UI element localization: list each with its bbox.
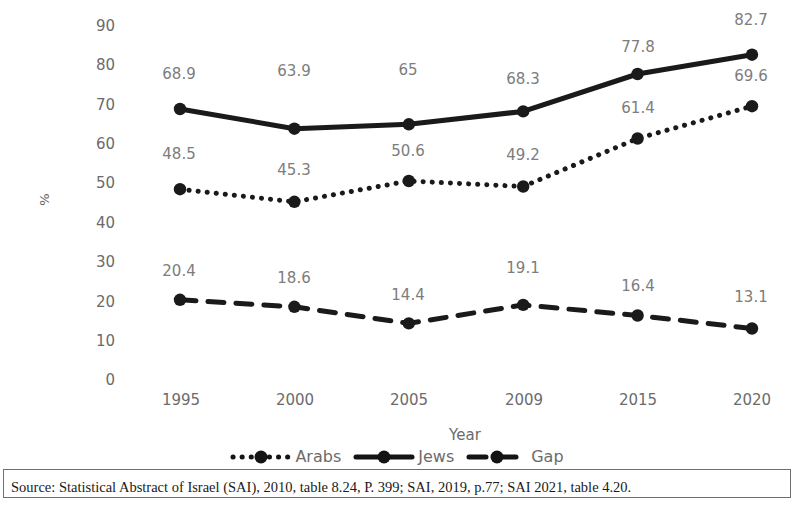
chart-plot-area: % 90 80 70 60 50 40 30 20 10 0 — [3, 4, 791, 470]
data-label-arabs: 48.5 — [144, 146, 214, 162]
data-point-jews — [288, 123, 300, 135]
x-tick-label-2020: 2020 — [707, 392, 791, 409]
data-point-arabs — [517, 180, 529, 192]
x-tick-label-1995: 1995 — [136, 392, 226, 409]
x-tick-label-2000: 2000 — [250, 392, 340, 409]
data-point-jews — [174, 103, 186, 115]
x-axis-title: Year — [420, 426, 510, 444]
data-label-jews: 65 — [373, 62, 443, 78]
figure-root: % 90 80 70 60 50 40 30 20 10 0 — [0, 0, 805, 507]
x-tick-label-2009: 2009 — [479, 392, 569, 409]
legend-label-arabs: Arabs — [295, 448, 341, 466]
data-label-arabs: 49.2 — [488, 147, 558, 163]
data-label-arabs: 45.3 — [259, 162, 329, 178]
data-label-jews: 82.7 — [716, 12, 786, 28]
data-label-gap: 18.6 — [259, 270, 329, 286]
data-point-gap — [174, 294, 186, 306]
legend-item-gap[interactable]: Gap — [466, 448, 563, 466]
data-label-gap: 16.4 — [603, 278, 673, 294]
x-tick-label-2015: 2015 — [593, 392, 683, 409]
data-label-arabs: 50.6 — [373, 143, 443, 159]
legend-item-jews[interactable]: Jews — [353, 448, 454, 466]
data-point-arabs — [746, 100, 758, 112]
series-line-gap — [180, 300, 752, 329]
chart-legend: Arabs Jews Gap — [3, 448, 791, 466]
data-point-gap — [517, 299, 529, 311]
data-label-arabs: 69.6 — [716, 68, 786, 84]
data-point-arabs — [174, 183, 186, 195]
data-point-jews — [746, 49, 758, 61]
data-point-gap — [746, 322, 758, 334]
data-label-gap: 20.4 — [144, 263, 214, 279]
data-point-arabs — [403, 175, 415, 187]
data-label-jews: 63.9 — [259, 63, 329, 79]
data-point-jews — [517, 105, 529, 117]
data-label-jews: 77.8 — [603, 39, 673, 55]
legend-swatch-dashed-icon — [466, 448, 528, 466]
legend-swatch-solid-icon — [353, 448, 415, 466]
data-label-gap: 19.1 — [488, 260, 558, 276]
legend-label-jews: Jews — [418, 448, 454, 466]
data-label-arabs: 61.4 — [603, 100, 673, 116]
source-caption: Source: Statistical Abstract of Israel (… — [11, 478, 781, 496]
data-label-gap: 13.1 — [716, 289, 786, 305]
legend-label-gap: Gap — [531, 448, 563, 466]
data-point-jews — [631, 68, 643, 80]
data-point-jews — [403, 118, 415, 130]
data-label-gap: 14.4 — [373, 287, 443, 303]
data-label-jews: 68.9 — [144, 66, 214, 82]
x-tick-label-2005: 2005 — [364, 392, 454, 409]
series-line-arabs — [180, 106, 752, 202]
legend-swatch-dotted-icon — [230, 448, 292, 466]
data-point-arabs — [288, 196, 300, 208]
data-point-gap — [631, 309, 643, 321]
data-point-gap — [288, 301, 300, 313]
data-point-arabs — [631, 132, 643, 144]
data-label-jews: 68.3 — [488, 71, 558, 87]
data-point-gap — [403, 317, 415, 329]
legend-item-arabs[interactable]: Arabs — [230, 448, 341, 466]
